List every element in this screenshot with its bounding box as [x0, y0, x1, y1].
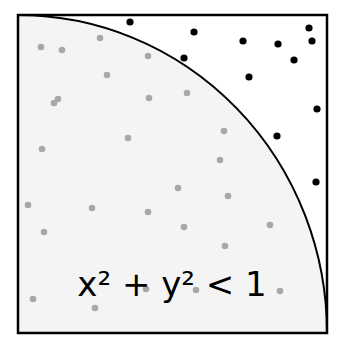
outside-point [308, 37, 315, 44]
inside-point [51, 100, 58, 107]
inside-point [175, 185, 182, 192]
outside-point [313, 105, 320, 112]
inside-point [222, 243, 229, 250]
outside-point [273, 132, 280, 139]
inside-point [267, 222, 274, 229]
formula-label: x² + y² < 1 [77, 264, 266, 304]
outside-point [245, 73, 252, 80]
inside-point [89, 205, 96, 212]
inside-point [30, 296, 37, 303]
inside-point [97, 35, 104, 42]
inside-point [104, 72, 111, 79]
inside-point [39, 146, 46, 153]
inside-point [145, 53, 152, 60]
inside-point [38, 44, 45, 51]
inside-point [125, 135, 132, 142]
inside-point [221, 128, 228, 135]
outside-point [180, 54, 187, 61]
outside-point [305, 24, 312, 31]
inside-point [92, 305, 99, 312]
inside-point [41, 229, 48, 236]
outside-point [312, 178, 319, 185]
inside-point [217, 157, 224, 164]
inside-point [181, 224, 188, 231]
inside-point [184, 90, 191, 97]
outside-point [126, 18, 133, 25]
inside-point [59, 47, 66, 54]
outside-point [290, 56, 297, 63]
outside-point [190, 28, 197, 35]
inside-point [146, 95, 153, 102]
inside-point [25, 202, 32, 209]
inside-point [145, 209, 152, 216]
outside-point [274, 40, 281, 47]
outside-point [239, 37, 246, 44]
inside-point [277, 288, 284, 295]
monte-carlo-diagram: x² + y² < 1 [0, 0, 341, 348]
inside-point [225, 193, 232, 200]
